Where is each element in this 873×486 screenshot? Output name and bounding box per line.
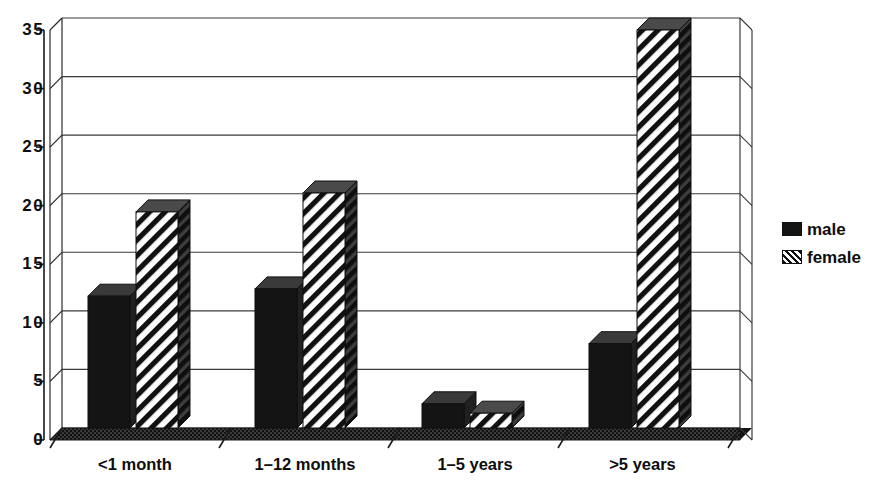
bar-male-lt1month bbox=[88, 284, 142, 428]
legend-label-male: male bbox=[807, 221, 846, 238]
legend-swatch-male-icon bbox=[782, 222, 802, 236]
y-tick-15: 15 bbox=[2, 255, 44, 272]
y-axis-tick-labels: 35 30 25 20 15 10 5 0 bbox=[0, 0, 44, 486]
bar-female-1to5years bbox=[470, 401, 524, 428]
left-wall bbox=[50, 18, 62, 440]
right-wall bbox=[740, 18, 752, 440]
chart-plot-area bbox=[0, 0, 873, 486]
bar-female-gt5years bbox=[637, 18, 691, 428]
x-tick-label-lt1month: <1 month bbox=[70, 456, 200, 473]
bar-female-1to12months bbox=[303, 181, 357, 428]
y-tick-5: 5 bbox=[2, 372, 44, 389]
y-tick-20: 20 bbox=[2, 197, 44, 214]
bar-male-1to5years bbox=[422, 392, 476, 428]
x-tick-label-1to12months: 1–12 months bbox=[225, 456, 385, 473]
bar-female-lt1month bbox=[136, 200, 190, 428]
y-tick-30: 30 bbox=[2, 80, 44, 97]
x-tick-label-gt5years: >5 years bbox=[570, 456, 715, 473]
legend-item-female: female bbox=[782, 245, 872, 269]
bar-chart: 35 30 25 20 15 10 5 0 <1 month 1–12 mont… bbox=[0, 0, 873, 486]
legend-swatch-female-icon bbox=[782, 250, 802, 264]
y-tick-35: 35 bbox=[2, 21, 44, 38]
bar-male-1to12months bbox=[255, 277, 309, 428]
y-tick-10: 10 bbox=[2, 314, 44, 331]
legend-label-female: female bbox=[807, 249, 861, 266]
y-tick-25: 25 bbox=[2, 138, 44, 155]
x-tick-label-1to5years: 1–5 years bbox=[405, 456, 545, 473]
y-tick-0: 0 bbox=[2, 431, 44, 448]
legend-item-male: male bbox=[782, 217, 872, 241]
chart-legend: male female bbox=[782, 217, 872, 273]
bar-male-gt5years bbox=[589, 332, 643, 428]
